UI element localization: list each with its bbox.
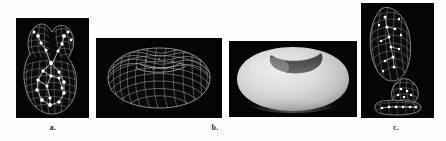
panel-b-caption: b. bbox=[198, 123, 232, 132]
panel-c-caption: c. bbox=[379, 123, 413, 132]
figure-panel-b bbox=[96, 38, 222, 118]
panel-shaded-specular-highlight bbox=[249, 57, 289, 77]
panel-a-caption: a. bbox=[36, 123, 70, 132]
figure-panel-shaded-surface bbox=[229, 41, 357, 117]
figure-panel-c bbox=[361, 3, 434, 118]
figure-root: a. bbox=[0, 0, 446, 141]
panel-c-wireframe-components bbox=[361, 3, 434, 118]
panel-a-wireframe-model bbox=[16, 18, 89, 118]
panel-b-silhouette bbox=[108, 48, 210, 108]
panel-b-wireframe-mesh bbox=[96, 38, 222, 118]
figure-panel-a bbox=[16, 18, 89, 118]
panel-shaded-bottom-shading bbox=[247, 93, 339, 113]
panel-shaded-surface-model bbox=[229, 41, 357, 117]
